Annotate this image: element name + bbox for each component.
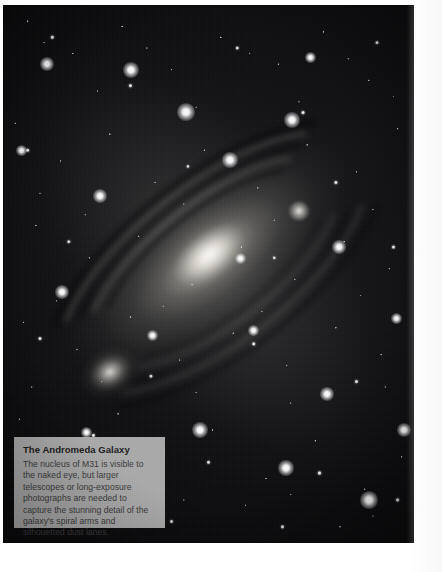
bright-star	[397, 423, 410, 436]
bright-star	[332, 240, 345, 253]
caption-title: The Andromeda Galaxy	[23, 444, 156, 456]
bright-star	[222, 152, 237, 167]
caption-body: The nucleus of M31 is visible to the nak…	[23, 459, 156, 539]
bright-star	[55, 285, 68, 298]
photo-caption-box: The Andromeda Galaxy The nucleus of M31 …	[14, 437, 165, 528]
bright-star	[278, 460, 293, 475]
printed-page: The Andromeda Galaxy The nucleus of M31 …	[0, 0, 442, 572]
bright-star	[16, 145, 27, 156]
bright-star	[192, 422, 207, 437]
bright-star	[320, 387, 333, 400]
bright-star	[40, 57, 53, 70]
bright-star	[360, 491, 378, 509]
bright-star	[305, 52, 316, 63]
bright-star	[391, 313, 402, 324]
bright-star	[235, 253, 246, 264]
bright-star	[248, 325, 259, 336]
bright-star	[284, 112, 299, 127]
bright-star	[93, 189, 106, 202]
bright-star	[177, 103, 195, 121]
bright-star	[123, 62, 138, 77]
bright-star	[147, 330, 158, 341]
bright-star	[81, 427, 92, 438]
